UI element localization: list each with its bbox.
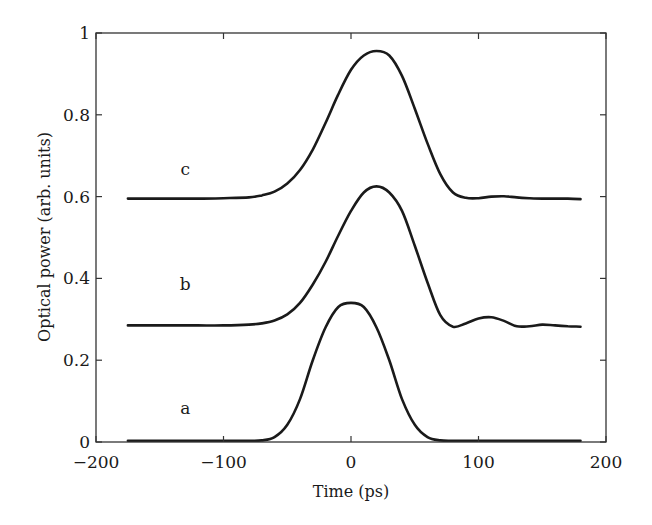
- axis-ticks: [96, 33, 606, 442]
- x-tick-label: 100: [462, 452, 494, 472]
- y-tick-label: 0.4: [63, 268, 90, 288]
- curve-label-c: c: [180, 159, 190, 179]
- x-axis-label: Time (ps): [313, 482, 389, 501]
- curve-label-a: a: [180, 398, 190, 418]
- y-tick-label: 0: [79, 432, 90, 452]
- y-tick-label: 0.6: [63, 187, 90, 207]
- curve-label-b: b: [180, 274, 191, 294]
- x-tick-label: −100: [200, 452, 247, 472]
- y-axis-label: Optical power (arb. units): [35, 132, 54, 342]
- curves-group: [128, 51, 581, 441]
- axis-tick-labels: −200−100010020000.20.40.60.81: [63, 23, 622, 472]
- pulse-chart: −200−100010020000.20.40.60.81 abc Time (…: [0, 0, 652, 525]
- curve-b: [128, 186, 581, 327]
- curve-c: [128, 51, 581, 199]
- y-tick-label: 0.2: [63, 350, 90, 370]
- x-tick-label: 200: [590, 452, 622, 472]
- y-tick-label: 0.8: [63, 105, 90, 125]
- y-tick-label: 1: [79, 23, 90, 43]
- x-tick-label: 0: [346, 452, 357, 472]
- x-tick-label: −200: [73, 452, 120, 472]
- plot-frame: [96, 33, 606, 442]
